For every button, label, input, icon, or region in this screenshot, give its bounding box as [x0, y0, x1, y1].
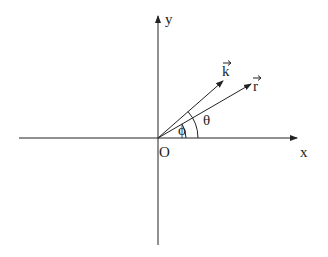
vector-angle-diagram: y x O k r θ ϕ: [0, 0, 328, 257]
vector-r: [158, 84, 251, 138]
y-axis-label: y: [165, 11, 173, 27]
x-axis-label: x: [300, 144, 308, 160]
origin-label: O: [159, 144, 170, 160]
vector-k: [158, 81, 223, 138]
phi-label: ϕ: [178, 122, 186, 138]
diagram-canvas: y x O k r θ ϕ: [0, 0, 328, 257]
theta-label: θ: [203, 112, 210, 128]
vector-r-label: r: [253, 78, 258, 94]
